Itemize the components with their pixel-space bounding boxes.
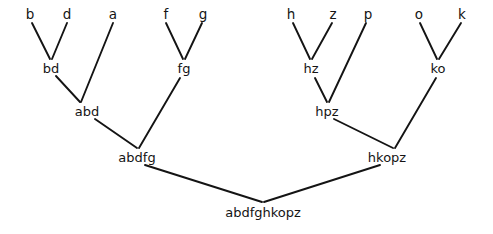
dendrogram-node-label-hpz: hpz bbox=[315, 105, 338, 118]
dendrogram-edge-hpz-hkopz bbox=[334, 119, 393, 148]
dendrogram-edge-h-hz bbox=[293, 23, 310, 59]
dendrogram-node-label-hkopz: hkopz bbox=[368, 151, 406, 164]
dendrogram-node-label-p: p bbox=[364, 8, 373, 21]
dendrogram-node-label-o: o bbox=[415, 8, 423, 21]
dendrogram-node-label-a: a bbox=[109, 8, 117, 21]
dendrogram-edge-b-bd bbox=[32, 23, 50, 59]
dendrogram-edge-hkopz-abdfghkopz bbox=[264, 165, 380, 202]
dendrogram-node-label-d: d bbox=[63, 8, 72, 21]
dendrogram-node-label-b: b bbox=[26, 8, 35, 21]
dendrogram-node-label-abd: abd bbox=[75, 105, 99, 118]
dendrogram-edge-fg-abdfg bbox=[139, 78, 180, 148]
dendrogram-node-label-k: k bbox=[458, 8, 466, 21]
dendrogram-node-label-hz: hz bbox=[303, 62, 318, 75]
dendrogram-node-label-ko: ko bbox=[430, 62, 445, 75]
dendrogram-edge-f-fg bbox=[166, 23, 183, 59]
dendrogram-node-label-z: z bbox=[329, 8, 336, 21]
dendrogram-edge-p-hpz bbox=[329, 23, 366, 102]
dendrogram-node-label-bd: bd bbox=[43, 62, 60, 75]
dendrogram-node-label-g: g bbox=[199, 8, 208, 21]
dendrogram-edge-ko-hkopz bbox=[395, 78, 436, 148]
dendrogram-node-label-abdfghkopz: abdfghkopz bbox=[225, 206, 301, 219]
dendrogram-edge-a-abd bbox=[81, 23, 113, 102]
dendrogram-node-label-fg: fg bbox=[178, 62, 191, 75]
dendrogram-edge-k-ko bbox=[439, 23, 461, 59]
dendrogram-edge-hz-hpz bbox=[315, 78, 327, 102]
dendrogram-edge-g-fg bbox=[185, 23, 202, 59]
dendrogram-edge-z-hz bbox=[312, 23, 332, 59]
dendrogram-node-label-f: f bbox=[164, 8, 169, 21]
dendrogram-edge-abdfg-abdfghkopz bbox=[145, 165, 262, 202]
dendrogram-node-label-h: h bbox=[287, 8, 296, 21]
dendrogram-edge-bd-abd bbox=[56, 76, 80, 102]
dendrogram-edge-abd-abdfg bbox=[95, 119, 137, 148]
dendrogram-figure: bdafghzpokbdfghzkoabdhpzabdfghkopzabdfgh… bbox=[0, 0, 493, 234]
dendrogram-node-label-abdfg: abdfg bbox=[118, 151, 155, 164]
dendrogram-edge-d-bd bbox=[52, 23, 67, 59]
dendrogram-edge-o-ko bbox=[420, 23, 437, 59]
